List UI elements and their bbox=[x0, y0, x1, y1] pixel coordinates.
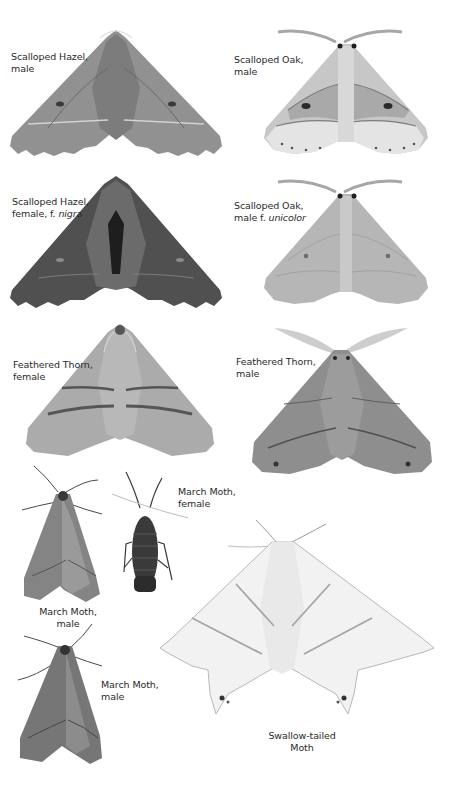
caption-species: Scalloped Oak, bbox=[234, 54, 304, 66]
caption-sex: male bbox=[234, 66, 304, 78]
caption-species: Scalloped Oak, bbox=[234, 200, 306, 212]
caption-species: March Moth, bbox=[32, 606, 104, 618]
specimen-feathered-thorn-female: Feathered Thorn, female bbox=[22, 322, 218, 462]
caption-species: Feathered Thorn, bbox=[236, 356, 316, 368]
caption-species: Feathered Thorn, bbox=[13, 359, 93, 371]
caption-sex: female, f. bbox=[12, 208, 55, 219]
caption-species: March Moth, bbox=[101, 679, 159, 691]
caption-species: Swallow-tailed bbox=[262, 730, 342, 742]
moth-illustration-feathered-thorn-female bbox=[22, 322, 218, 462]
specimen-swallow-tailed-moth bbox=[158, 518, 438, 728]
specimen-scalloped-hazel-female-nigra: Scalloped Hazel, female, f. nigra bbox=[8, 174, 224, 314]
caption-swallow-tailed-moth: Swallow-tailed Moth bbox=[262, 730, 342, 754]
caption-sex: Moth bbox=[262, 742, 342, 754]
specimen-march-moth-male-2 bbox=[16, 622, 110, 768]
specimen-scalloped-hazel-male: Scalloped Hazel, male bbox=[8, 28, 224, 168]
moth-illustration-march-moth-male-2 bbox=[16, 622, 110, 768]
moth-illustration-scalloped-hazel-male bbox=[8, 28, 224, 168]
caption-scalloped-hazel-female-nigra: Scalloped Hazel, female, f. nigra bbox=[12, 196, 89, 220]
moth-illustration-feathered-thorn-male bbox=[244, 324, 440, 480]
moth-illustration-swallow-tailed-moth bbox=[158, 518, 438, 728]
caption-sex: male f. bbox=[234, 212, 266, 223]
caption-sex: female bbox=[178, 498, 236, 510]
caption-feathered-thorn-male: Feathered Thorn, male bbox=[236, 356, 316, 380]
caption-species: Scalloped Hazel, bbox=[11, 51, 88, 63]
moth-illustration-march-moth-male-1 bbox=[16, 466, 110, 606]
caption-sex: male bbox=[236, 368, 316, 380]
caption-sex: male bbox=[11, 63, 88, 75]
specimen-feathered-thorn-male: Feathered Thorn, male bbox=[244, 324, 440, 480]
caption-march-moth-female: March Moth, female bbox=[178, 486, 236, 510]
moth-identification-plate: Scalloped Hazel, male Scalloped Oak, mal… bbox=[0, 0, 455, 793]
caption-form: unicolor bbox=[268, 212, 305, 223]
specimen-march-moth-male-1 bbox=[16, 466, 110, 606]
moth-illustration-scalloped-oak-male bbox=[248, 28, 448, 168]
caption-march-moth-male-2: March Moth, male bbox=[101, 679, 159, 703]
specimen-scalloped-oak-male-unicolor: Scalloped Oak, male f. unicolor bbox=[248, 178, 448, 318]
caption-sex: male bbox=[101, 691, 159, 703]
specimen-scalloped-oak-male: Scalloped Oak, male bbox=[248, 28, 448, 168]
caption-species: Scalloped Hazel, bbox=[12, 196, 89, 208]
moth-illustration-scalloped-hazel-female-nigra bbox=[8, 174, 224, 314]
caption-scalloped-oak-male: Scalloped Oak, male bbox=[234, 54, 304, 78]
caption-scalloped-hazel-male: Scalloped Hazel, male bbox=[11, 51, 88, 75]
caption-species: March Moth, bbox=[178, 486, 236, 498]
caption-sex: female bbox=[13, 371, 93, 383]
moth-illustration-scalloped-oak-male-unicolor bbox=[248, 178, 448, 318]
caption-feathered-thorn-female: Feathered Thorn, female bbox=[13, 359, 93, 383]
caption-scalloped-oak-male-unicolor: Scalloped Oak, male f. unicolor bbox=[234, 200, 306, 224]
caption-form: nigra bbox=[58, 208, 82, 219]
